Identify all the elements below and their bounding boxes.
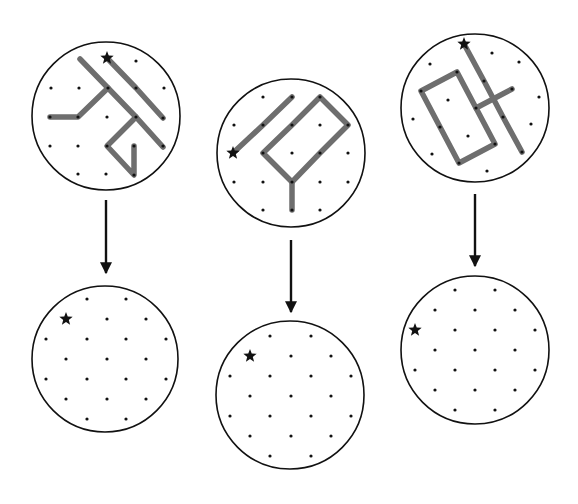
grid-dot [76,144,79,147]
grid-dot [457,161,460,164]
grid-dot [164,337,167,340]
grid-dot [520,150,523,153]
grid-dot [438,125,441,128]
grid-dot [232,180,235,183]
grid-dot [76,115,79,118]
grid-dot [48,144,51,147]
grid-dot [533,328,536,331]
grid-dot [513,308,516,311]
grid-dot [309,454,312,457]
column-3 [401,34,549,424]
grid-dot [513,348,516,351]
grid-dot [290,123,293,126]
grid-dot [248,434,251,437]
grid-dot [473,348,476,351]
grid-dot [268,414,271,417]
grid-dot [85,417,88,420]
grid-dot [134,115,137,118]
grid-dot [501,115,504,118]
grid-dot [493,408,496,411]
grid-dot [309,334,312,337]
grid-dot [144,397,147,400]
grid-dot [76,172,79,175]
grid-dot [268,334,271,337]
grid-dot [134,86,137,89]
grid-dot [453,328,456,331]
grid-dot [48,115,51,118]
grid-dot [446,98,449,101]
grid-dot [105,357,108,360]
grid-dot [124,417,127,420]
grid-dot [433,348,436,351]
grid-dot [261,208,264,211]
grid-dot [346,151,349,154]
grid-dot [473,308,476,311]
grid-dot [309,374,312,377]
grid-dot [261,151,264,154]
grid-dot [124,297,127,300]
grid-dot [105,144,108,147]
top-circle [401,34,549,182]
circle-outline [32,286,178,432]
grid-dot [289,354,292,357]
grid-dot [513,388,516,391]
grid-dot [268,374,271,377]
bottom-circle [401,276,549,424]
grid-dot [132,173,135,176]
grid-dot [473,388,476,391]
grid-dot [346,123,349,126]
grid-dot [290,151,293,154]
grid-dot [228,374,231,377]
grid-dot [289,434,292,437]
grid-dot [290,95,293,98]
grid-dot [261,123,264,126]
column-1 [32,42,180,432]
grid-dot [318,95,321,98]
grid-dot [124,377,127,380]
grid-dot [134,59,137,62]
grid-dot [290,180,293,183]
grid-dot [318,151,321,154]
top-circle [217,79,365,227]
diagram-columns [32,34,549,469]
grid-dot [493,368,496,371]
grid-dot [261,180,264,183]
grid-dot [517,60,520,63]
grid-dot [349,414,352,417]
grid-dot [318,208,321,211]
grid-dot [485,169,488,172]
grid-dot [346,180,349,183]
grid-dot [64,397,67,400]
grid-dot [85,337,88,340]
grid-dot [261,95,264,98]
grid-dot [493,328,496,331]
diagram-canvas [0,0,578,504]
grid-dot [329,354,332,357]
grid-dot [329,394,332,397]
grid-dot [349,374,352,377]
top-circle [32,42,180,190]
grid-dot [248,394,251,397]
grid-dot [430,152,433,155]
grid-dot [232,123,235,126]
grid-dot [106,86,109,89]
grid-dot [85,297,88,300]
grid-dot [161,116,164,119]
grid-dot [124,337,127,340]
grid-dot [44,377,47,380]
grid-dot [132,144,135,147]
bottom-circle [32,286,178,432]
grid-dot [529,122,532,125]
grid-dot [433,308,436,311]
grid-dot [161,144,164,147]
grid-dot [104,172,107,175]
grid-dot [290,208,293,211]
grid-dot [466,134,469,137]
grid-dot [453,408,456,411]
grid-dot [64,357,67,360]
grid-dot [413,368,416,371]
grid-dot [510,87,513,90]
grid-dot [85,377,88,380]
grid-dot [318,123,321,126]
grid-dot [433,388,436,391]
